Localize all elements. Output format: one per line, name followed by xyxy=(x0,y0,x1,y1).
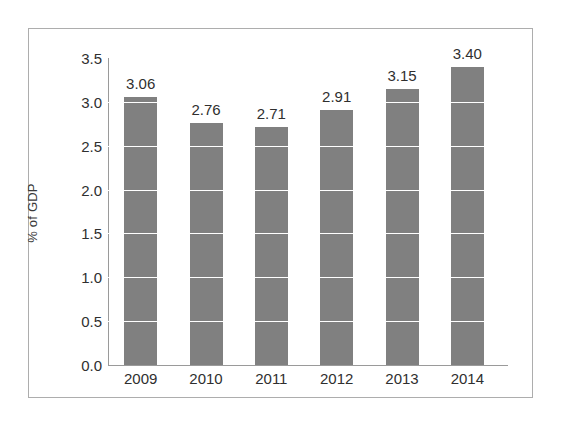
bar[interactable] xyxy=(190,123,223,365)
bar-slot: 3.06 xyxy=(124,58,157,365)
bar-value-label: 2.76 xyxy=(191,101,220,118)
bar-series: 3.062.762.712.913.153.40 xyxy=(108,58,500,365)
y-tick-label: 3.0 xyxy=(56,93,102,110)
bar-slot: 2.76 xyxy=(190,58,223,365)
y-tick-label: 0.0 xyxy=(56,357,102,374)
bar-slot: 3.15 xyxy=(386,58,419,365)
y-tick-label: 0.5 xyxy=(56,313,102,330)
y-tick-label: 3.5 xyxy=(56,50,102,67)
x-category-label: 2014 xyxy=(451,370,484,387)
x-axis-category-labels: 200920102011201220132014 xyxy=(108,370,500,396)
x-category-label: 2010 xyxy=(189,370,222,387)
bar-value-label: 2.71 xyxy=(257,105,286,122)
x-category-label: 2011 xyxy=(255,370,287,387)
y-axis-tick-labels: 0.00.51.01.52.02.53.03.5 xyxy=(50,58,102,365)
plot-area: 3.062.762.712.913.153.40 xyxy=(108,58,500,365)
y-tick-label: 2.0 xyxy=(56,181,102,198)
bar-value-label: 3.06 xyxy=(126,75,155,92)
gridline xyxy=(108,277,500,278)
bar-slot: 3.40 xyxy=(451,58,484,365)
gridline xyxy=(108,233,500,234)
bar-slot: 2.91 xyxy=(320,58,353,365)
bar[interactable] xyxy=(255,127,288,365)
bar-value-label: 3.40 xyxy=(453,45,482,62)
y-tick-label: 2.5 xyxy=(56,137,102,154)
y-tick-label: 1.0 xyxy=(56,269,102,286)
gridline xyxy=(108,146,500,147)
gridline xyxy=(108,190,500,191)
x-category-label: 2009 xyxy=(124,370,157,387)
gridline xyxy=(108,102,500,103)
bar[interactable] xyxy=(320,110,353,365)
bar[interactable] xyxy=(386,89,419,365)
bar[interactable] xyxy=(124,97,157,365)
bar-slot: 2.71 xyxy=(255,58,288,365)
x-category-label: 2012 xyxy=(320,370,353,387)
y-tick-label: 1.5 xyxy=(56,225,102,242)
x-category-label: 2013 xyxy=(385,370,418,387)
y-axis-title: % of GDP xyxy=(18,28,46,398)
gridline xyxy=(108,321,500,322)
bar-value-label: 3.15 xyxy=(387,67,416,84)
chart-figure: % of GDP 0.00.51.01.52.02.53.03.5 3.062.… xyxy=(0,0,563,425)
x-axis-line xyxy=(108,365,508,366)
